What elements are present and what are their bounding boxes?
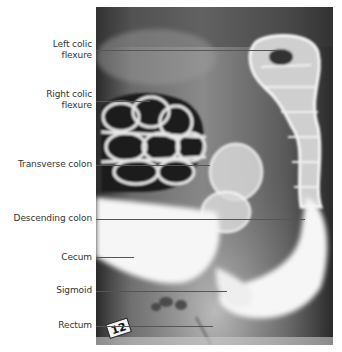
leader-sigmoid: [96, 291, 227, 292]
label-line: flexure: [46, 100, 92, 111]
label-line: Left colic: [53, 39, 92, 50]
label-left-colic-flexure: Left colic flexure: [53, 39, 92, 61]
leader-cecum: [96, 257, 134, 258]
label-line: flexure: [53, 50, 92, 61]
xray-image: 12: [96, 7, 333, 345]
label-cecum: Cecum: [61, 252, 92, 263]
label-line: Right colic: [46, 89, 92, 100]
leader-left-colic-flexure: [96, 50, 279, 51]
label-sigmoid: Sigmoid: [56, 285, 92, 296]
label-transverse-colon: Transverse colon: [18, 159, 92, 170]
label-rectum: Rectum: [58, 320, 92, 331]
leader-right-colic-flexure: [96, 101, 150, 102]
leader-rectum: [96, 326, 213, 327]
label-descending-colon: Descending colon: [14, 213, 92, 224]
leader-descending-colon: [96, 219, 305, 220]
label-right-colic-flexure: Right colic flexure: [46, 89, 92, 111]
colon-radiograph: 12: [96, 7, 333, 345]
leader-transverse-colon: [96, 165, 210, 166]
